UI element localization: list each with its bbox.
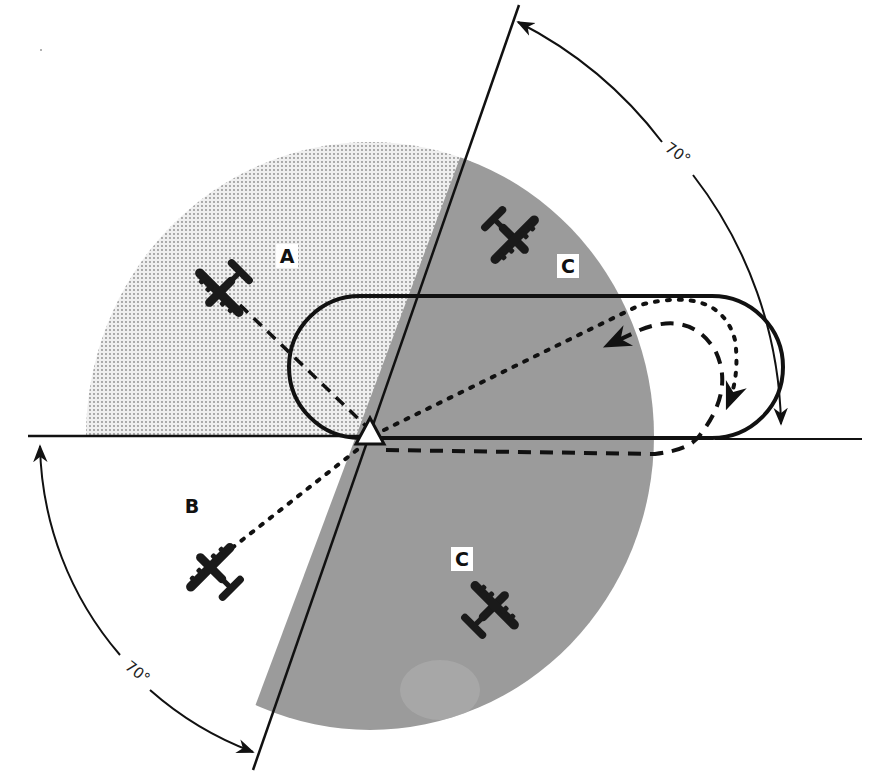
svg-text:A: A (280, 245, 295, 267)
speck (40, 49, 42, 51)
svg-text:C: C (455, 548, 469, 570)
svg-text:C: C (561, 255, 575, 277)
sector-c-lower-label: C (451, 547, 473, 571)
angle-label-upper: 70° (662, 139, 694, 169)
sector-a-label: A (276, 244, 298, 268)
angle-label-lower: 70° (122, 657, 154, 688)
angle-arc-lower-bottom-segment (150, 690, 253, 752)
aircraft-b-icon (175, 532, 257, 614)
svg-text:B: B (185, 495, 199, 517)
angle-arc-upper (518, 22, 662, 142)
holding-pattern-diagram: 70° 70° A B C C (0, 0, 873, 784)
sector-b-label: B (185, 495, 199, 517)
angle-arc-lower (40, 446, 120, 655)
sector-c-upper-label: C (557, 254, 579, 278)
